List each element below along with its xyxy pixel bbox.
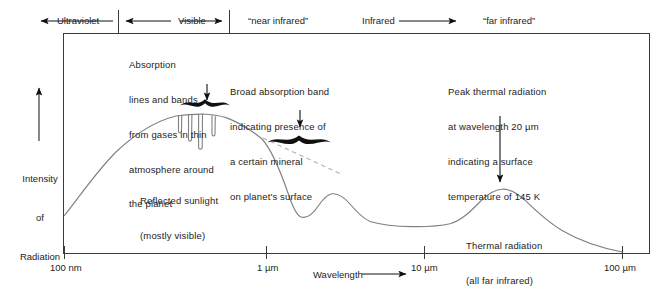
annotation-line: from gases in thin xyxy=(129,129,214,141)
band-label-visible: Visible xyxy=(178,15,206,27)
annotation-line: on planet's surface xyxy=(230,191,329,203)
y-axis-label-line2: of xyxy=(4,211,76,224)
annotation-line: Thermal radiation xyxy=(466,240,542,252)
annotation-line: indicating presence of xyxy=(230,121,329,133)
x-axis-title: Wavelength xyxy=(313,269,363,281)
annotation-line: Absorption xyxy=(129,59,214,71)
annotation-broad-absorption-band: Broad absorption band indicating presenc… xyxy=(230,63,329,225)
annotation-peak-thermal-radiation: Peak thermal radiation at wavelength 20 … xyxy=(448,63,546,225)
annotation-line: Reflected sunlight xyxy=(140,195,218,207)
annotation-line: a certain mineral xyxy=(230,156,329,168)
band-label-far-infrared: “far infrared” xyxy=(483,15,535,27)
x-tick-label-1um: 1 µm xyxy=(257,262,278,274)
band-label-near-infrared: “near infrared” xyxy=(248,15,308,27)
y-axis-label-line1: Intensity xyxy=(4,172,76,185)
annotation-line: temperature of 145 K xyxy=(448,191,546,203)
annotation-line: (mostly visible) xyxy=(140,230,218,242)
annotation-line: Broad absorption band xyxy=(230,86,329,98)
band-label-infrared: Infrared xyxy=(362,15,395,27)
annotation-line: lines and bands xyxy=(129,94,214,106)
spectrum-figure: Ultraviolet Visible “near infrared” Infr… xyxy=(0,0,663,292)
annotation-reflected-sunlight: Reflected sunlight (mostly visible) xyxy=(140,172,218,265)
x-tick-label-10um: 10 µm xyxy=(411,262,438,274)
x-tick-label-100um: 100 µm xyxy=(604,262,636,274)
annotation-line: (all far infrared) xyxy=(466,275,542,287)
annotation-line: Peak thermal radiation xyxy=(448,86,546,98)
x-tick-label-100nm: 100 nm xyxy=(50,262,82,274)
annotation-line: at wavelength 20 µm xyxy=(448,121,546,133)
band-label-ultraviolet: Ultraviolet xyxy=(57,15,99,27)
annotation-thermal-radiation: Thermal radiation (all far infrared) xyxy=(466,217,542,292)
figure-vector-layer xyxy=(0,0,663,292)
annotation-line: indicating a surface xyxy=(448,156,546,168)
